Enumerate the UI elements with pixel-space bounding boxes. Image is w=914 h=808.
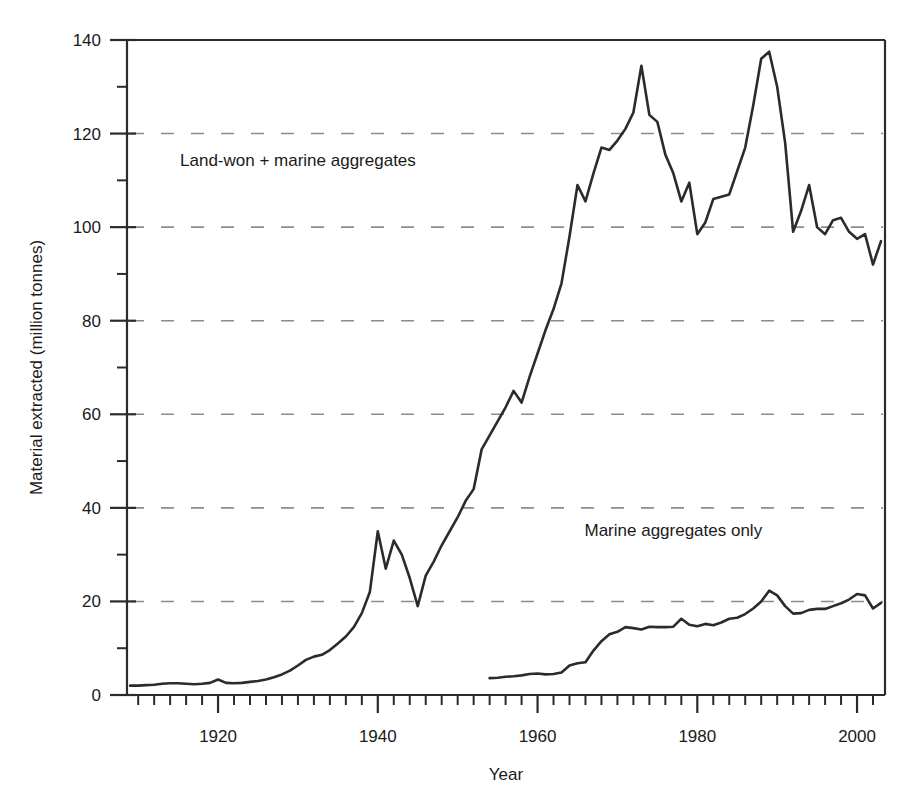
y-tick-label: 0 [92, 686, 101, 705]
y-tick-label: 120 [73, 125, 101, 144]
series-label-0: Land-won + marine aggregates [180, 151, 416, 170]
x-axis-title: Year [489, 765, 524, 784]
y-axis-title: Material extracted (million tonnes) [27, 240, 46, 495]
series-label-1: Marine aggregates only [584, 521, 762, 540]
chart-canvas: 02040608010012014019201940196019802000La… [0, 0, 914, 808]
y-tick-label: 60 [82, 405, 101, 424]
y-tick-label: 140 [73, 31, 101, 50]
y-tick-label: 80 [82, 312, 101, 331]
x-tick-label: 2000 [838, 727, 876, 746]
chart-figure: 02040608010012014019201940196019802000La… [0, 0, 914, 808]
y-tick-label: 20 [82, 592, 101, 611]
series-line-1 [490, 591, 881, 678]
x-tick-label: 1960 [519, 727, 557, 746]
y-tick-label: 100 [73, 218, 101, 237]
x-tick-label: 1920 [199, 727, 237, 746]
y-tick-label: 40 [82, 499, 101, 518]
x-tick-label: 1940 [359, 727, 397, 746]
x-tick-label: 1980 [678, 727, 716, 746]
